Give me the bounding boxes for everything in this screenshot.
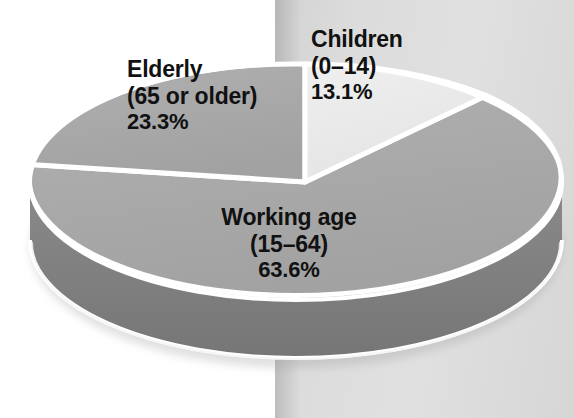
slice-label-elderly-line2: (65 or older)	[127, 83, 257, 110]
slice-label-elderly: Elderly (65 or older) 23.3%	[127, 56, 257, 135]
slice-label-children-line1: Children	[311, 26, 403, 53]
slice-label-elderly-line1: Elderly	[127, 56, 257, 83]
slice-value-elderly: 23.3%	[127, 109, 257, 135]
slice-label-working-age: Working age (15–64) 63.6%	[209, 204, 369, 283]
slice-label-working-age-line2: (15–64)	[209, 231, 369, 258]
pie-chart-figure: Elderly (65 or older) 23.3% Children (0–…	[0, 0, 574, 418]
slice-value-children: 13.1%	[311, 79, 403, 105]
slice-label-children-line2: (0–14)	[311, 53, 403, 80]
slice-label-children: Children (0–14) 13.1%	[311, 26, 403, 105]
slice-label-working-age-line1: Working age	[209, 204, 369, 231]
slice-value-working-age: 63.6%	[209, 257, 369, 283]
